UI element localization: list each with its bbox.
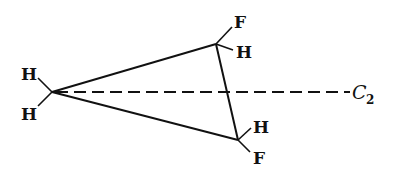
bond-left-h-upper <box>38 78 52 92</box>
atom-h-left-upper: H <box>21 64 37 84</box>
bond-left-h-lower <box>38 92 52 106</box>
atom-f-bottom: F <box>253 148 265 168</box>
bond-top-h <box>216 44 233 50</box>
atom-h-left-lower: H <box>21 104 37 124</box>
bond-bottom-f <box>238 140 250 152</box>
atom-f-top: F <box>234 12 246 32</box>
atom-h-bottom: H <box>253 117 269 137</box>
bond-left-top <box>52 44 216 92</box>
bond-top-f <box>216 27 232 44</box>
atom-h-top: H <box>236 42 252 62</box>
c2-axis-label: C <box>352 81 367 103</box>
bond-left-bottom <box>52 92 238 140</box>
molecule-diagram: H H F H H F C 2 <box>0 0 393 176</box>
c2-axis-subscript: 2 <box>366 93 374 107</box>
bond-bottom-h <box>238 128 251 140</box>
